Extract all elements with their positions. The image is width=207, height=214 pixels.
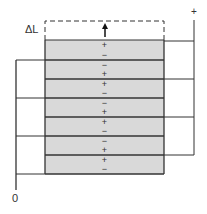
layer-bottom-sign: + bbox=[102, 145, 107, 155]
layer-bottom-sign: + bbox=[102, 107, 107, 117]
layer-bottom-sign: + bbox=[102, 69, 107, 79]
delta-l-label: ΔL bbox=[25, 24, 38, 35]
positive-terminal-label: + bbox=[191, 7, 197, 17]
layer-bottom-sign: − bbox=[102, 164, 107, 174]
layer-bottom-sign: − bbox=[102, 88, 107, 98]
layer-bottom-sign: − bbox=[102, 126, 107, 136]
layer-top-sign: + bbox=[102, 40, 107, 50]
ground-terminal-label: 0 bbox=[12, 193, 18, 204]
layer-bottom-sign: − bbox=[102, 50, 107, 60]
arrow-head-icon bbox=[102, 23, 108, 29]
